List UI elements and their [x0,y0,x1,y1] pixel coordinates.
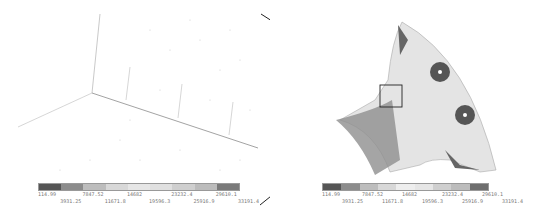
legend-swatch [172,184,194,190]
legend-swatch [83,184,105,190]
legend-swatch [150,184,172,190]
legend-label: 14682 [402,191,417,197]
legend-label: 25916.9 [194,198,215,204]
legend-label: 23232.4 [442,191,463,197]
full-model-panel: 114.997847.521468223232.429610.13931.251… [280,0,554,214]
legend-swatch [323,184,341,190]
legend-swatch [360,184,378,190]
legend-label: 33191.4 [502,198,523,204]
legend-swatch [195,184,217,190]
legend-swatch [451,184,469,190]
color-legend-bar [322,183,489,191]
legend-swatch [415,184,433,190]
legend-label: 19596.3 [149,198,170,204]
legend-swatch [39,184,61,190]
color-legend-bar [38,183,240,191]
zoomed-mesh-view [0,0,270,214]
legend-label: 114.99 [38,191,56,197]
legend-swatch [217,184,239,190]
legend-label: 33191.4 [238,198,259,204]
callout-line-bottom [260,108,270,205]
legend-label: 7847.52 [82,191,103,197]
legend-swatch [470,184,488,190]
legend-swatch [378,184,396,190]
flange-contour-view [280,0,554,214]
legend-swatch [128,184,150,190]
legend-label: 29610.1 [216,191,237,197]
legend-swatch [61,184,83,190]
legend-swatch [433,184,451,190]
legend-label: 3931.25 [342,198,363,204]
legend-label: 19596.3 [422,198,443,204]
legend-label: 11671.8 [105,198,126,204]
legend-label: 7847.52 [362,191,383,197]
legend-label: 29610.1 [482,191,503,197]
legend-label: 3931.25 [60,198,81,204]
zoomed-detail-panel: 114.997847.521468223232.429610.13931.251… [0,0,270,214]
legend-swatch [341,184,359,190]
legend-label: 11671.8 [382,198,403,204]
legend-label: 14682 [127,191,142,197]
legend-swatch [106,184,128,190]
callout-line-top [261,14,270,90]
legend-label: 23232.4 [171,191,192,197]
legend-label: 114.99 [322,191,340,197]
legend-label: 25916.9 [462,198,483,204]
legend-swatch [396,184,414,190]
